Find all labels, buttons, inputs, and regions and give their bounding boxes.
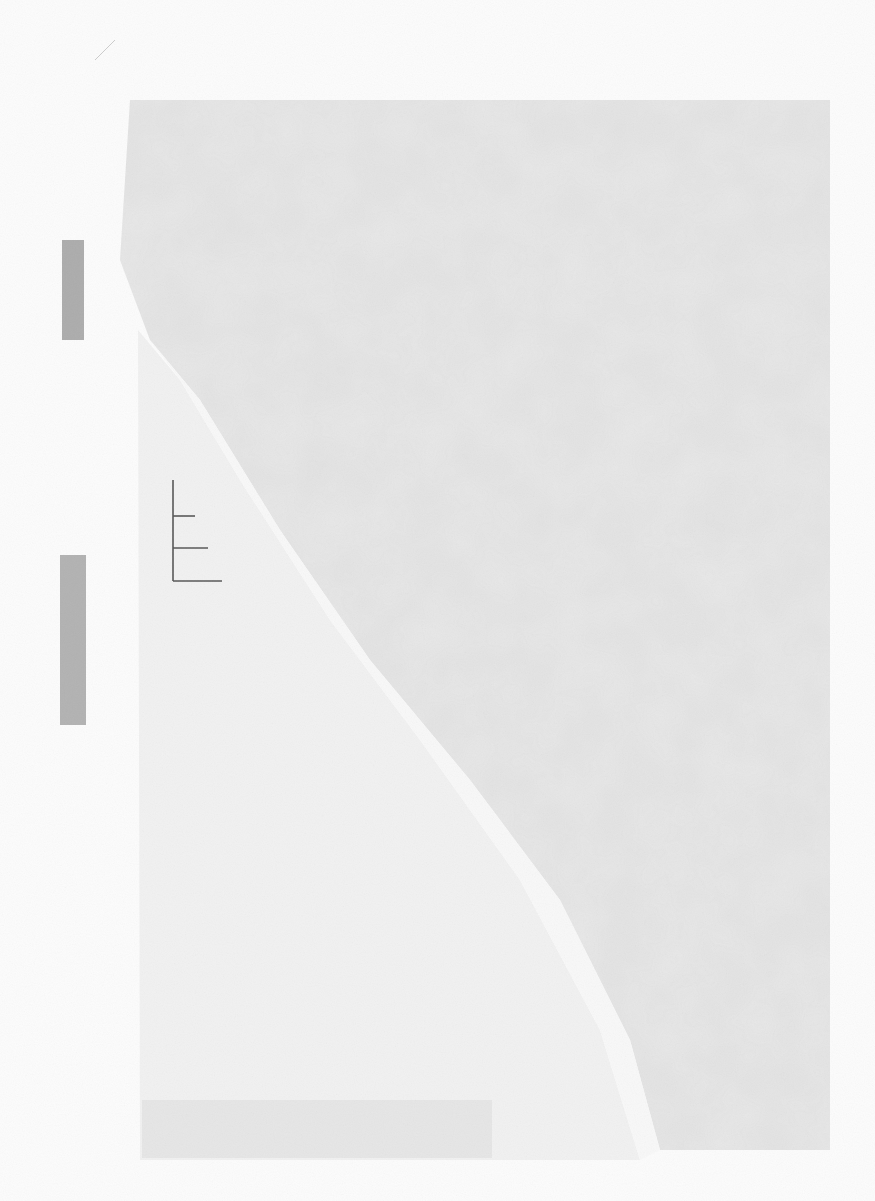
scanned-page: [0, 0, 875, 1201]
